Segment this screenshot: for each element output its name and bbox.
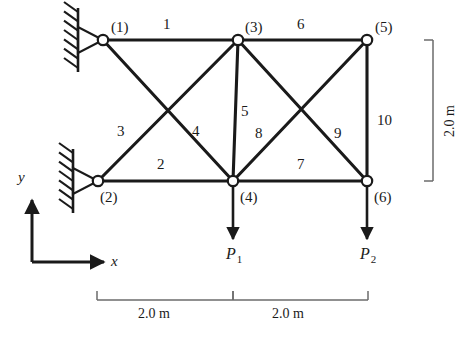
support-hatch-line: [64, 39, 78, 49]
truss-node-2[interactable]: [93, 176, 103, 186]
support-hatch-line: [64, 11, 78, 21]
support-hatch-line: [64, 30, 78, 40]
support-hatch-line: [64, 21, 78, 31]
members-group: [98, 40, 367, 181]
dimension-label-horizontal-2: 2.0 m: [272, 307, 304, 321]
member-label-1: 1: [163, 17, 171, 32]
dimension-label-vertical-1: 2.0 m: [443, 105, 457, 137]
member-label-8: 8: [255, 126, 263, 141]
truss-node-5[interactable]: [362, 35, 372, 45]
truss-member-4: [103, 40, 233, 181]
member-label-9: 9: [334, 126, 342, 141]
support-hatch-line: [64, 58, 78, 68]
node-label-6: (6): [374, 190, 392, 205]
truss-node-1[interactable]: [98, 35, 108, 45]
member-label-6: 6: [297, 17, 305, 32]
truss-diagram-canvas: [0, 0, 465, 342]
member-label-10: 10: [377, 113, 392, 128]
dimension-lines-group: [97, 40, 433, 300]
member-label-2: 2: [157, 157, 165, 172]
node-label-2: (2): [100, 190, 118, 205]
support-hatch-line: [64, 49, 78, 59]
y-axis-label: y: [18, 170, 25, 185]
member-label-7: 7: [297, 157, 305, 172]
node-label-3: (3): [245, 20, 263, 35]
support-hatch-line: [59, 152, 73, 162]
support-hatch-line: [59, 143, 73, 153]
truss-node-3[interactable]: [233, 35, 243, 45]
support-hatch-line: [59, 171, 73, 181]
member-label-4: 4: [192, 124, 200, 139]
node-label-1: (1): [111, 20, 129, 35]
support-hatch-line: [59, 162, 73, 172]
support-hatch-line: [59, 199, 73, 209]
truss-diagram-figure: 12345678910P1P2(1)(2)(3)(4)(5)(6)2.0 m2.…: [0, 0, 465, 342]
truss-node-6[interactable]: [362, 176, 372, 186]
x-axis-label: x: [111, 254, 118, 269]
node-label-5: (5): [375, 20, 393, 35]
node-label-4: (4): [240, 190, 258, 205]
truss-node-4[interactable]: [228, 176, 238, 186]
member-label-3: 3: [117, 124, 125, 139]
axes-group: [32, 200, 104, 262]
member-label-5: 5: [241, 104, 249, 119]
dimension-label-horizontal-1: 2.0 m: [138, 307, 170, 321]
support-hatch-line: [64, 2, 78, 12]
support-hatch-line: [59, 190, 73, 200]
truss-member-5: [233, 40, 238, 181]
load-label-P1: P1: [226, 246, 242, 265]
support-hatch-line: [59, 180, 73, 190]
load-label-P2: P2: [360, 246, 376, 265]
